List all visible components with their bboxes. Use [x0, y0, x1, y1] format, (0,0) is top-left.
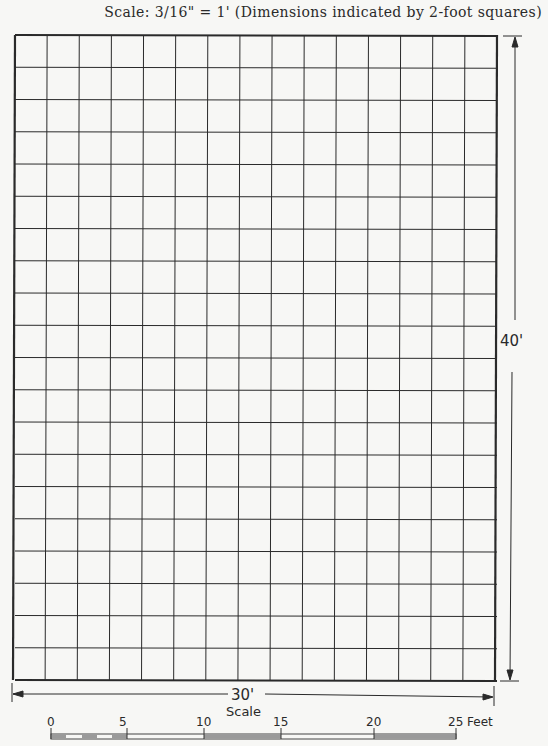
- grid-line-vertical: [431, 35, 433, 680]
- grid-line-horizontal: [15, 583, 497, 584]
- scale-tick-label: 25 Feet: [448, 715, 493, 729]
- grid-line-horizontal: [15, 519, 497, 520]
- arrow-down-icon: [507, 670, 513, 680]
- grid-line-horizontal: [15, 454, 497, 455]
- height-label: 40': [500, 332, 523, 350]
- grid-line-horizontal: [15, 164, 497, 165]
- grid-line-vertical: [463, 35, 465, 680]
- scale-tick-label: 10: [196, 715, 211, 729]
- grid-line-horizontal: [15, 293, 497, 294]
- grid-line-vertical: [334, 35, 336, 680]
- grid-line-horizontal: [15, 422, 497, 423]
- grid-line-horizontal: [15, 261, 497, 262]
- grid-border: [15, 35, 497, 36]
- grid-line-vertical: [270, 35, 272, 680]
- grid-line-horizontal: [15, 325, 497, 326]
- grid-line-vertical: [302, 35, 304, 680]
- arrow-up-icon: [512, 37, 518, 47]
- grid-line-horizontal: [15, 487, 497, 488]
- scale-tick-label: 15: [273, 715, 288, 729]
- height-dimension: [500, 36, 522, 681]
- grid-border: [495, 35, 497, 680]
- grid-line-horizontal: [15, 229, 497, 230]
- width-label: 30': [231, 686, 254, 704]
- grid-line-horizontal: [15, 132, 497, 133]
- grid-line-horizontal: [15, 648, 497, 649]
- arrow-left-icon: [13, 691, 23, 697]
- planning-grid: [13, 35, 497, 681]
- grid-line-horizontal: [15, 390, 497, 391]
- grid-border: [15, 680, 497, 681]
- grid-drawing: 40' 30' Scale 0510152025 Feet: [0, 0, 548, 746]
- grid-line-horizontal: [15, 100, 497, 101]
- scale-tick-label: 0: [47, 715, 55, 729]
- grid-border: [13, 35, 15, 680]
- grid-line-horizontal: [15, 67, 497, 68]
- grid-line-vertical: [366, 35, 368, 680]
- scale-bar-title: Scale: [226, 704, 261, 719]
- scale-tick-label: 5: [119, 715, 127, 729]
- grid-line-horizontal: [15, 551, 497, 552]
- scale-tick-label: 20: [366, 715, 381, 729]
- scale-bar: 0510152025 Feet: [47, 715, 493, 739]
- grid-line-horizontal: [15, 358, 497, 359]
- grid-line-horizontal: [15, 196, 497, 197]
- arrow-right-icon: [483, 694, 493, 700]
- grid-line-horizontal: [15, 616, 497, 617]
- grid-line-vertical: [399, 35, 401, 680]
